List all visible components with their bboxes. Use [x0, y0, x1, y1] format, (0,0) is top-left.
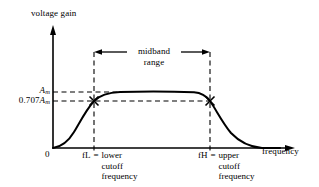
gain-response-curve	[53, 92, 280, 148]
midband-range-label: midbandrange	[128, 46, 180, 67]
y-axis-label: voltage gain	[31, 8, 76, 18]
fl-equals: =	[91, 150, 102, 161]
fh-description-line2: cutoff	[219, 161, 240, 171]
midband-range-line2: range	[144, 57, 165, 67]
upper-cutoff-annotation: fH = uppercutofffrequency	[198, 150, 255, 182]
origin-label: 0	[45, 149, 50, 159]
frequency-response-figure: voltage gain frequency Am 0.707Am 0 midb…	[0, 0, 319, 187]
y-axis	[50, 25, 56, 148]
fl-description: lowercutofffrequency	[102, 150, 138, 182]
cutoff-gain-subscript: m	[45, 98, 50, 105]
midband-range-line1: midband	[138, 46, 170, 56]
fh-description: uppercutofffrequency	[219, 150, 255, 182]
fh-description-line1: upper	[219, 150, 240, 160]
fl-description-line1: lower	[102, 150, 123, 160]
lower-cutoff-annotation: fL = lowercutofffrequency	[82, 150, 138, 182]
fl-description-line3: frequency	[102, 171, 138, 181]
x-axis-label: frequency	[262, 146, 299, 156]
fh-description-line3: frequency	[219, 171, 255, 181]
fl-description-line2: cutoff	[102, 161, 123, 171]
fh-symbol-group: fH	[198, 150, 208, 161]
cutoff-gain-label: 0.707Am	[2, 95, 50, 107]
cutoff-gain-prefix: 0.707	[19, 95, 40, 105]
fl-symbol-group: fL	[82, 150, 91, 161]
fh-equals: =	[208, 150, 219, 161]
